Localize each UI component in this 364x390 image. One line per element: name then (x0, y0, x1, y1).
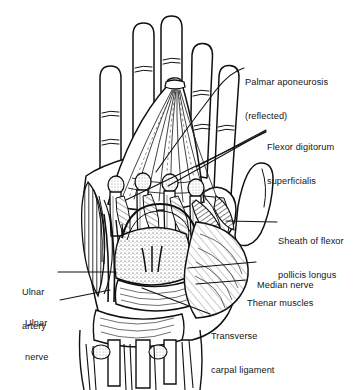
label-ulnar-nerve-line1: Ulnar (25, 318, 48, 329)
label-fds-line2: superficialis (267, 176, 334, 187)
label-sheath-fpl-line1: Sheath of flexor (278, 236, 344, 247)
label-fds-line1: Flexor digitorum (267, 142, 334, 153)
index-finger (100, 66, 121, 172)
anatomical-figure: Palmar aponeurosis (reflected) Flexor di… (0, 0, 364, 390)
label-tcl-line2: carpal ligament (211, 365, 275, 376)
label-flexor-digitorum-superficialis: Flexor digitorum superficialis (267, 120, 334, 210)
median-nerve-region (115, 227, 190, 285)
forearm-tendons (108, 340, 176, 388)
label-thenar-muscles-line1: Thenar muscles (247, 298, 313, 309)
label-ulnar-nerve-line2: nerve (25, 352, 48, 363)
label-ulnar-nerve: Ulnar nerve (25, 296, 48, 386)
label-palmar-aponeurosis-line1: Palmar aponeurosis (245, 77, 328, 88)
label-transverse-carpal-ligament: Transverse carpal ligament (211, 309, 275, 390)
label-tcl-line1: Transverse (211, 331, 275, 342)
